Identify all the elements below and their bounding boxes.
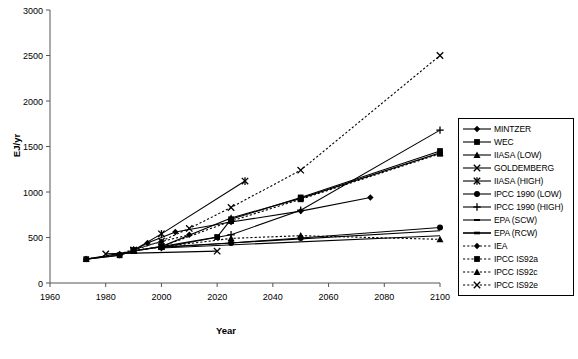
marker-star: [242, 177, 248, 185]
y-tick-label: 500: [28, 233, 43, 243]
y-tick-label: 1500: [23, 142, 43, 152]
marker-x: [298, 167, 304, 173]
legend-swatch: [462, 279, 492, 291]
legend-item-iea[interactable]: IEA: [462, 239, 571, 252]
series-line: [134, 181, 245, 250]
y-tick-label: 0: [38, 279, 43, 289]
series-wec: [83, 148, 443, 262]
legend-swatch: [462, 149, 492, 161]
chart-legend: MINTZERWECIIASA (LOW)GOLDEMBERGIIASA (HI…: [458, 118, 574, 296]
legend-item-label: EPA (SCW): [492, 214, 537, 226]
legend-item-label: IIASA (HIGH): [492, 175, 543, 187]
chart-root: 1960198020002020204020602080210005001000…: [0, 0, 578, 359]
legend-item-label: IPCC 1990 (LOW): [492, 188, 561, 200]
marker-x: [474, 281, 480, 287]
marker-plus: [297, 207, 304, 214]
y-tick-label: 3000: [23, 6, 43, 16]
legend-swatch: [462, 240, 492, 252]
x-tick-label: 2040: [263, 292, 283, 302]
x-tick-label: 1980: [96, 292, 116, 302]
marker-x: [186, 225, 192, 231]
legend-swatch: [462, 253, 492, 265]
series-line: [134, 56, 440, 251]
marker-star: [158, 230, 164, 238]
marker-square: [228, 218, 234, 224]
marker-square: [437, 151, 443, 157]
marker-diamond: [367, 194, 373, 200]
marker-x: [437, 52, 443, 58]
legend-swatch: [462, 162, 492, 174]
legend-item-ipcc-1990-high[interactable]: IPCC 1990 (HIGH): [462, 200, 571, 213]
legend-swatch: [462, 123, 492, 135]
legend-item-mintzer[interactable]: MINTZER: [462, 122, 571, 135]
legend-item-label: EPA (RCW): [492, 227, 537, 239]
marker-diamond: [474, 125, 480, 131]
marker-plus: [473, 203, 480, 210]
legend-item-label: WEC: [492, 136, 514, 148]
marker-plus: [436, 126, 443, 133]
x-tick-label: 2000: [151, 292, 171, 302]
x-tick-label: 1960: [40, 292, 60, 302]
legend-item-epa-scw[interactable]: EPA (SCW): [462, 213, 571, 226]
legend-swatch: [462, 175, 492, 187]
series-iiasa-low: [83, 149, 444, 262]
x-axis-title: Year: [0, 325, 452, 336]
legend-item-iiasa-high[interactable]: IIASA (HIGH): [462, 174, 571, 187]
y-axis-title: EJ/yr: [11, 121, 22, 171]
marker-circle: [474, 191, 480, 197]
legend-item-label: MINTZER: [492, 123, 531, 135]
legend-swatch: [462, 201, 492, 213]
y-tick-label: 2500: [23, 51, 43, 61]
legend-item-epa-rcw[interactable]: EPA (RCW): [462, 226, 571, 239]
y-tick-label: 2000: [23, 97, 43, 107]
legend-item-ipcc-is92a[interactable]: IPCC IS92a: [462, 252, 571, 265]
x-tick-label: 2080: [374, 292, 394, 302]
marker-x: [228, 204, 234, 210]
legend-swatch: [462, 136, 492, 148]
legend-item-label: IEA: [492, 240, 507, 252]
marker-square: [474, 139, 480, 145]
legend-item-label: IPCC IS92e: [492, 279, 538, 291]
legend-swatch: [462, 227, 492, 239]
legend-swatch: [462, 266, 492, 278]
legend-item-ipcc-1990-low[interactable]: IPCC 1990 (LOW): [462, 187, 571, 200]
legend-item-goldemberg[interactable]: GOLDEMBERG: [462, 161, 571, 174]
series-line: [86, 197, 370, 259]
x-tick-label: 2060: [319, 292, 339, 302]
marker-square: [298, 196, 304, 202]
marker-triangle: [228, 235, 235, 242]
legend-swatch: [462, 188, 492, 200]
legend-swatch: [462, 214, 492, 226]
marker-triangle: [474, 268, 481, 275]
legend-item-label: IIASA (LOW): [492, 149, 542, 161]
x-tick-label: 2100: [430, 292, 450, 302]
legend-item-ipcc-is92e[interactable]: IPCC IS92e: [462, 278, 571, 291]
legend-item-iiasa-low[interactable]: IIASA (LOW): [462, 148, 571, 161]
x-tick-label: 2020: [207, 292, 227, 302]
y-tick-label: 1000: [23, 188, 43, 198]
marker-triangle: [437, 236, 444, 243]
legend-item-label: GOLDEMBERG: [492, 162, 554, 174]
legend-item-ipcc-is92c[interactable]: IPCC IS92c: [462, 265, 571, 278]
marker-circle: [437, 224, 443, 230]
legend-item-label: IPCC 1990 (HIGH): [492, 201, 563, 213]
legend-item-label: IPCC IS92a: [492, 253, 538, 265]
legend-item-label: IPCC IS92c: [492, 266, 537, 278]
marker-diamond: [474, 242, 480, 248]
legend-item-wec[interactable]: WEC: [462, 135, 571, 148]
marker-square: [474, 256, 480, 262]
